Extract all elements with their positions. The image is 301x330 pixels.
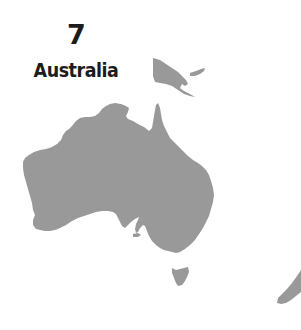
new-britain-island bbox=[190, 68, 205, 76]
australia-mainland bbox=[23, 103, 214, 253]
tasmania bbox=[172, 267, 189, 286]
new-zealand-south-island bbox=[277, 270, 301, 304]
kangaroo-island bbox=[133, 233, 141, 237]
papua-new-guinea-landmass bbox=[153, 58, 195, 97]
region-map bbox=[0, 0, 301, 330]
